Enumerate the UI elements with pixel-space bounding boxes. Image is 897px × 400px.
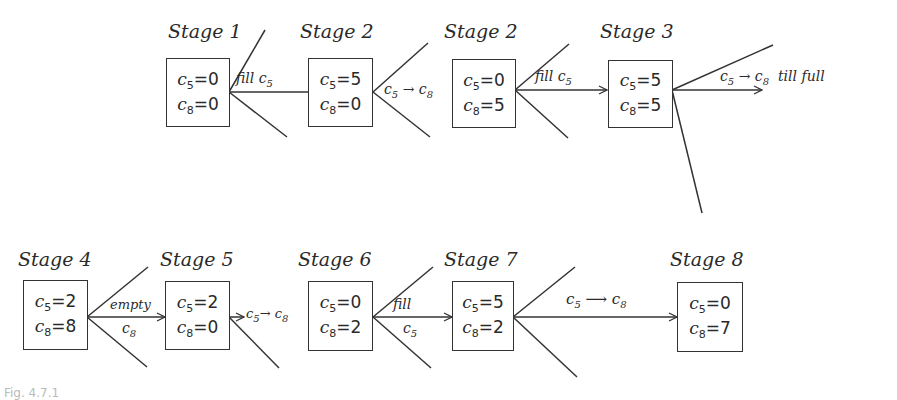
transition-pour-1: c5 → c8 <box>384 81 433 100</box>
stage-2b-title: Stage 2 <box>444 20 518 42</box>
stage-6-box: c5=0 c8=2 <box>308 281 373 351</box>
transition-empty-c8: c8 <box>122 320 136 339</box>
stage-1-title: Stage 1 <box>168 20 242 42</box>
stage-4-c8: c8=8 <box>35 316 77 339</box>
transition-pour-3: c5 ⟶ c8 <box>566 290 627 310</box>
transition-fill-label: fill <box>393 296 411 312</box>
stage-2b-c8: c8=5 <box>463 95 505 118</box>
stage-3-c5: c5=5 <box>620 70 662 93</box>
stage-7-box: c5=5 c8=2 <box>452 281 514 351</box>
stage-2-box: c5=5 c8=0 <box>308 58 373 127</box>
stage-2b-c5: c5=0 <box>463 70 505 93</box>
stage-3-c8: c8=5 <box>620 95 662 118</box>
stage-1-c8: c8=0 <box>177 94 219 117</box>
stage-1-c5: c5=0 <box>177 69 219 92</box>
transition-empty-label: empty <box>110 297 151 312</box>
figure-caption: Fig. 4.7.1 <box>4 386 59 400</box>
stage-8-c5: c5=0 <box>689 293 731 316</box>
stage-2-title: Stage 2 <box>300 20 374 42</box>
stage-2-c8: c8=0 <box>320 94 362 117</box>
stage-5-title: Stage 5 <box>160 248 234 270</box>
stage-4-box: c5=2 c8=8 <box>23 280 88 350</box>
stage-6-c5: c5=0 <box>320 292 362 315</box>
stage-8-box: c5=0 c8=7 <box>677 282 743 352</box>
stage-4-c5: c5=2 <box>35 291 77 314</box>
transition-pour-till-full: c5 → c8 till full <box>720 68 825 87</box>
stage-8-title: Stage 8 <box>670 248 744 270</box>
transition-fill-c5-1: fill c5 <box>236 70 273 89</box>
stage-2-c5: c5=5 <box>320 69 362 92</box>
stage-2b-box: c5=0 c8=5 <box>452 59 516 128</box>
stage-6-c8: c8=2 <box>320 317 362 340</box>
stage-3-box: c5=5 c8=5 <box>608 60 673 128</box>
stage-5-c8: c8=0 <box>177 317 219 340</box>
stage-1-box: c5=0 c8=0 <box>166 58 230 127</box>
transition-pour-2: c5→ c8 <box>246 306 288 324</box>
stage-5-c5: c5=2 <box>177 292 219 315</box>
stage-3-title: Stage 3 <box>600 20 674 42</box>
stage-6-title: Stage 6 <box>298 248 372 270</box>
stage-7-c5: c5=5 <box>462 292 504 315</box>
stage-5-box: c5=2 c8=0 <box>165 281 230 350</box>
transition-fill-c5-3: c5 <box>403 320 417 339</box>
transition-fill-c5-2: fill c5 <box>535 68 572 87</box>
stage-4-title: Stage 4 <box>18 248 92 270</box>
stage-7-title: Stage 7 <box>444 248 518 270</box>
stage-8-c8: c8=7 <box>689 318 731 341</box>
stage-7-c8: c8=2 <box>462 317 504 340</box>
